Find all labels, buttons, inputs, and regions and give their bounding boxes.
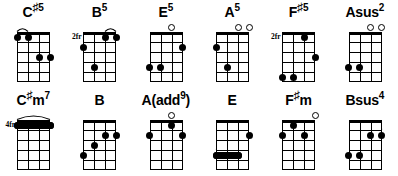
finger-dot bbox=[224, 64, 231, 71]
string-line bbox=[238, 120, 239, 170]
fret-line bbox=[83, 150, 116, 151]
string-line bbox=[238, 32, 239, 82]
fret-line bbox=[349, 160, 382, 161]
fret-line bbox=[17, 42, 50, 43]
chord-cell[interactable]: B52fr bbox=[66, 4, 132, 92]
chord-name-label: A5 bbox=[225, 4, 240, 21]
chord-cell[interactable]: C♯5 bbox=[0, 4, 66, 92]
fretboard-grid bbox=[150, 32, 183, 83]
fret-line bbox=[83, 130, 116, 131]
chord-cell[interactable]: E5 bbox=[133, 4, 199, 92]
nut-line bbox=[216, 120, 249, 123]
fretboard-grid bbox=[282, 120, 315, 171]
chord-root: A bbox=[142, 92, 152, 108]
chord-paren-open: (add bbox=[151, 92, 180, 108]
chord-name-label: C♯5 bbox=[23, 4, 44, 21]
fretboard-grid bbox=[83, 32, 116, 83]
chord-root: A bbox=[225, 4, 235, 20]
finger-dot bbox=[36, 122, 43, 129]
chord-root: B bbox=[95, 92, 105, 108]
chord-cell[interactable]: F♯52fr bbox=[265, 4, 331, 92]
finger-dot bbox=[146, 132, 153, 139]
chord-cell[interactable]: A5 bbox=[199, 4, 265, 92]
chord-name-label: A(add9) bbox=[142, 92, 191, 109]
chord-cell[interactable]: A(add9) bbox=[133, 92, 199, 176]
string-line bbox=[227, 32, 228, 82]
fret-line bbox=[83, 52, 116, 53]
chord-diagram bbox=[199, 21, 265, 89]
string-line bbox=[371, 120, 372, 170]
nut-line bbox=[83, 120, 116, 123]
chord-name-label: F♯m bbox=[285, 92, 311, 109]
fret-line bbox=[216, 130, 249, 131]
string-line bbox=[105, 120, 106, 170]
fretboard-grid bbox=[150, 120, 183, 171]
chord-diagram: 2fr bbox=[265, 21, 331, 89]
finger-dot bbox=[301, 34, 308, 41]
grid-outline bbox=[150, 32, 183, 82]
chord-name-label: B bbox=[95, 92, 105, 109]
fret-line bbox=[83, 42, 116, 43]
open-string-marker bbox=[235, 24, 242, 31]
fret-line bbox=[83, 72, 116, 73]
chord-cell[interactable]: Bsus4 bbox=[332, 92, 398, 176]
chord-cell[interactable]: C♯m74fr bbox=[0, 92, 66, 176]
grid-outline bbox=[349, 32, 382, 82]
finger-dot bbox=[301, 132, 308, 139]
fret-line bbox=[150, 140, 183, 141]
nut-line bbox=[216, 32, 249, 35]
grid-outline bbox=[216, 32, 249, 82]
finger-dot bbox=[102, 132, 109, 139]
chord-root: F bbox=[289, 4, 297, 20]
chord-root: C bbox=[16, 92, 26, 108]
chord-name-label: F♯5 bbox=[289, 4, 309, 21]
fret-line bbox=[216, 42, 249, 43]
string-line bbox=[161, 120, 162, 170]
fret-line bbox=[349, 150, 382, 151]
fretboard-grid bbox=[349, 120, 382, 171]
fret-line bbox=[17, 150, 50, 151]
fret-line bbox=[150, 160, 183, 161]
fretboard-grid bbox=[282, 32, 315, 83]
finger-dot bbox=[290, 122, 297, 129]
open-string-marker bbox=[168, 112, 175, 119]
chord-cell[interactable]: F♯m bbox=[265, 92, 331, 176]
fret-line bbox=[150, 62, 183, 63]
chord-root: B bbox=[92, 4, 102, 20]
chord-cell[interactable]: Asus2 bbox=[332, 4, 398, 92]
chord-cell[interactable]: B bbox=[66, 92, 132, 176]
chord-quality: m bbox=[32, 92, 44, 108]
chord-name-label: Asus2 bbox=[345, 4, 384, 21]
fret-line bbox=[216, 72, 249, 73]
chord-name-label: E bbox=[228, 92, 237, 109]
finger-dot bbox=[179, 132, 186, 139]
finger-dot bbox=[224, 152, 231, 159]
finger-dot bbox=[25, 122, 32, 129]
finger-dot bbox=[279, 74, 286, 81]
fret-line bbox=[216, 150, 249, 151]
chord-name-label: E5 bbox=[159, 4, 174, 21]
finger-dot bbox=[312, 54, 319, 61]
finger-dot bbox=[80, 44, 87, 51]
chord-extension: 5 bbox=[38, 2, 43, 13]
chord-name-label: Bsus4 bbox=[345, 92, 384, 109]
grid-outline bbox=[150, 120, 183, 170]
fret-line bbox=[349, 130, 382, 131]
nut-line bbox=[282, 32, 315, 35]
chord-name-label: B5 bbox=[92, 4, 107, 21]
chord-root: F bbox=[285, 92, 293, 108]
fret-line bbox=[150, 52, 183, 53]
string-line bbox=[227, 120, 228, 170]
string-line bbox=[161, 32, 162, 82]
chord-root: C bbox=[23, 4, 33, 20]
string-line bbox=[94, 32, 95, 82]
chord-diagram bbox=[332, 109, 398, 176]
chord-cell[interactable]: E bbox=[199, 92, 265, 176]
fret-line bbox=[150, 130, 183, 131]
finger-dot bbox=[102, 34, 109, 41]
finger-dot bbox=[246, 132, 253, 139]
chord-diagram bbox=[133, 109, 199, 176]
fret-line bbox=[83, 160, 116, 161]
fret-line bbox=[17, 130, 50, 131]
string-line bbox=[172, 32, 173, 82]
